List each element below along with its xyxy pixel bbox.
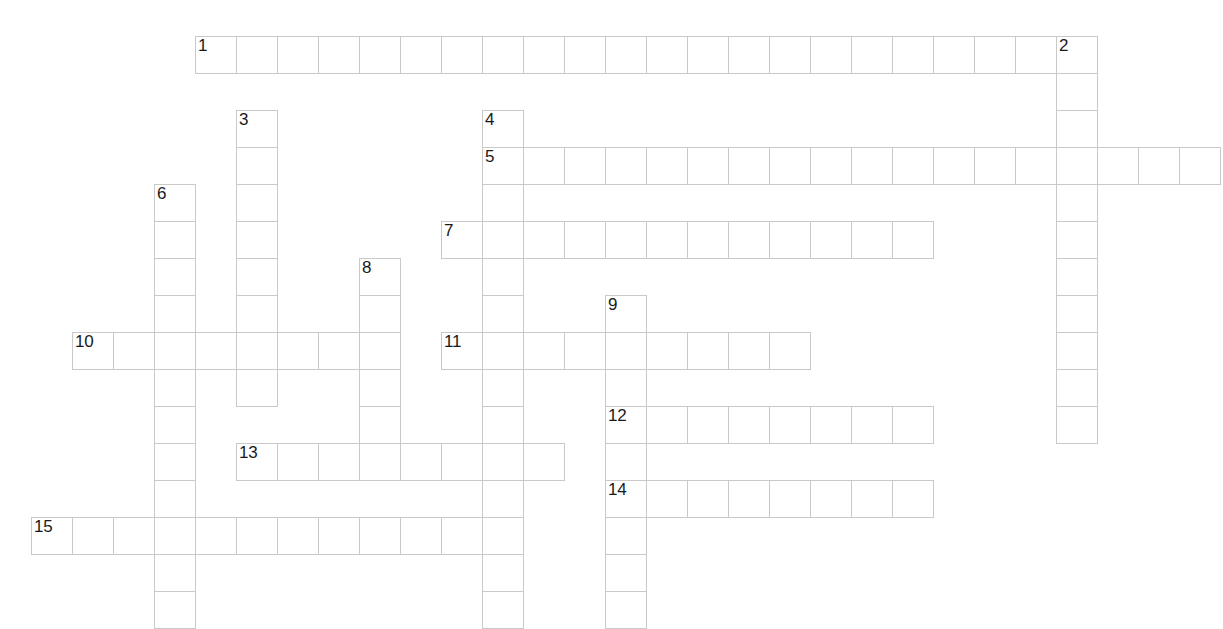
crossword-cell[interactable]	[892, 406, 934, 444]
crossword-cell[interactable]	[810, 406, 852, 444]
crossword-cell[interactable]	[564, 36, 606, 74]
crossword-cell[interactable]	[359, 295, 401, 333]
crossword-cell-start-4[interactable]: 4	[482, 110, 524, 148]
crossword-cell[interactable]	[482, 406, 524, 444]
crossword-cell[interactable]	[236, 332, 278, 370]
crossword-cell[interactable]	[400, 517, 442, 555]
crossword-cell[interactable]	[728, 406, 770, 444]
crossword-cell[interactable]	[236, 258, 278, 296]
crossword-cell-start-13[interactable]: 13	[236, 443, 278, 481]
crossword-cell[interactable]	[1056, 221, 1098, 259]
crossword-cell[interactable]	[359, 332, 401, 370]
crossword-cell[interactable]	[605, 221, 647, 259]
crossword-cell[interactable]	[605, 554, 647, 592]
crossword-cell[interactable]	[441, 517, 483, 555]
crossword-cell[interactable]	[687, 221, 729, 259]
crossword-cell-start-7[interactable]: 7	[441, 221, 483, 259]
crossword-cell[interactable]	[851, 221, 893, 259]
crossword-cell[interactable]	[1056, 184, 1098, 222]
crossword-cell[interactable]	[236, 184, 278, 222]
crossword-cell[interactable]	[810, 36, 852, 74]
crossword-cell[interactable]	[359, 406, 401, 444]
crossword-cell[interactable]	[1056, 369, 1098, 407]
crossword-cell[interactable]	[195, 332, 237, 370]
crossword-cell[interactable]	[523, 36, 565, 74]
crossword-cell[interactable]	[974, 147, 1016, 185]
crossword-cell-start-12[interactable]: 12	[605, 406, 647, 444]
crossword-cell[interactable]	[564, 221, 606, 259]
crossword-cell-start-1[interactable]: 1	[195, 36, 237, 74]
crossword-cell[interactable]	[523, 332, 565, 370]
crossword-cell[interactable]	[154, 406, 196, 444]
crossword-cell[interactable]	[154, 295, 196, 333]
crossword-cell[interactable]	[441, 36, 483, 74]
crossword-cell[interactable]	[277, 517, 319, 555]
crossword-cell-start-5[interactable]: 5	[482, 147, 524, 185]
crossword-cell[interactable]	[728, 332, 770, 370]
crossword-cell[interactable]	[482, 480, 524, 518]
crossword-cell[interactable]	[154, 221, 196, 259]
crossword-cell[interactable]	[646, 221, 688, 259]
crossword-cell[interactable]	[154, 480, 196, 518]
crossword-cell[interactable]	[564, 332, 606, 370]
crossword-cell-start-14[interactable]: 14	[605, 480, 647, 518]
crossword-cell[interactable]	[1056, 295, 1098, 333]
crossword-cell[interactable]	[892, 480, 934, 518]
crossword-cell[interactable]	[154, 332, 196, 370]
crossword-cell[interactable]	[318, 517, 360, 555]
crossword-cell[interactable]	[113, 332, 155, 370]
crossword-cell[interactable]	[236, 369, 278, 407]
crossword-cell[interactable]	[154, 443, 196, 481]
crossword-cell[interactable]	[277, 36, 319, 74]
crossword-cell[interactable]	[1015, 147, 1057, 185]
crossword-cell[interactable]	[769, 480, 811, 518]
crossword-cell[interactable]	[1056, 110, 1098, 148]
crossword-cell[interactable]	[482, 221, 524, 259]
crossword-cell[interactable]	[605, 591, 647, 629]
crossword-cell[interactable]	[728, 36, 770, 74]
crossword-cell-start-8[interactable]: 8	[359, 258, 401, 296]
crossword-cell[interactable]	[687, 147, 729, 185]
crossword-cell[interactable]	[728, 480, 770, 518]
crossword-cell[interactable]	[605, 517, 647, 555]
crossword-cell[interactable]	[154, 258, 196, 296]
crossword-cell[interactable]	[810, 480, 852, 518]
crossword-cell[interactable]	[1056, 73, 1098, 111]
crossword-cell[interactable]	[851, 480, 893, 518]
crossword-cell[interactable]	[318, 443, 360, 481]
crossword-cell[interactable]	[482, 517, 524, 555]
crossword-cell[interactable]	[277, 332, 319, 370]
crossword-cell[interactable]	[1056, 258, 1098, 296]
crossword-cell[interactable]	[482, 295, 524, 333]
crossword-cell[interactable]	[113, 517, 155, 555]
crossword-cell[interactable]	[359, 36, 401, 74]
crossword-cell[interactable]	[482, 554, 524, 592]
crossword-cell[interactable]	[687, 480, 729, 518]
crossword-cell[interactable]	[154, 591, 196, 629]
crossword-cell[interactable]	[605, 36, 647, 74]
crossword-cell[interactable]	[769, 147, 811, 185]
crossword-cell[interactable]	[400, 36, 442, 74]
crossword-cell[interactable]	[605, 332, 647, 370]
crossword-cell[interactable]	[605, 147, 647, 185]
crossword-cell[interactable]	[933, 36, 975, 74]
crossword-cell[interactable]	[359, 443, 401, 481]
crossword-cell[interactable]	[646, 480, 688, 518]
crossword-cell[interactable]	[1015, 36, 1057, 74]
crossword-cell[interactable]	[72, 517, 114, 555]
crossword-cell[interactable]	[482, 443, 524, 481]
crossword-cell[interactable]	[564, 147, 606, 185]
crossword-cell[interactable]	[892, 147, 934, 185]
crossword-cell[interactable]	[482, 369, 524, 407]
crossword-cell[interactable]	[236, 147, 278, 185]
crossword-cell[interactable]	[482, 332, 524, 370]
crossword-cell[interactable]	[1097, 147, 1139, 185]
crossword-cell[interactable]	[236, 36, 278, 74]
crossword-cell[interactable]	[769, 36, 811, 74]
crossword-cell[interactable]	[1056, 332, 1098, 370]
crossword-cell[interactable]	[646, 147, 688, 185]
crossword-cell[interactable]	[1056, 406, 1098, 444]
crossword-cell[interactable]	[318, 332, 360, 370]
crossword-cell[interactable]	[523, 147, 565, 185]
crossword-cell[interactable]	[769, 406, 811, 444]
